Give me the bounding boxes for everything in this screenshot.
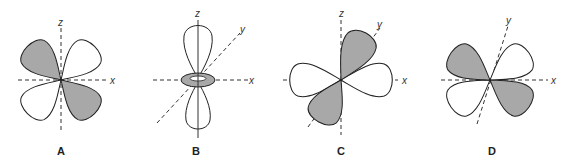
panel-d: y x D [441, 15, 557, 157]
panel-b: z y x B [153, 8, 255, 157]
x-axis-label: x [550, 75, 557, 86]
panel-label-c: C [337, 145, 345, 157]
z-axis-label: z [194, 8, 200, 19]
y-axis-label: y [505, 15, 512, 26]
x-axis-label: x [248, 75, 255, 86]
panel-c: z y x C [283, 8, 408, 157]
y-axis-label: y [376, 19, 383, 30]
x-axis-label: x [401, 75, 408, 86]
orbital-figure: z x A z y x B z y x C [0, 0, 573, 165]
z-axis-label: z [57, 17, 63, 28]
panel-label-d: D [488, 145, 496, 157]
panel-label-b: B [192, 145, 200, 157]
panel-a: z x A [16, 17, 116, 157]
z-axis-label: z [338, 8, 344, 19]
panel-label-a: A [57, 145, 65, 157]
x-axis-label: x [109, 75, 116, 86]
y-axis-label: y [239, 24, 246, 35]
